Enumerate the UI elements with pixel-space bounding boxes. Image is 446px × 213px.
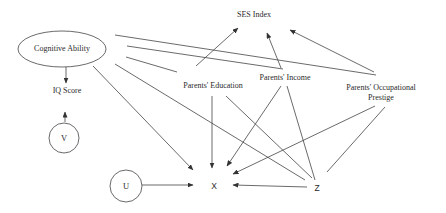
parents-occupational-line2: Prestige: [346, 93, 416, 103]
parents-income-label: Parents' Income: [260, 73, 311, 83]
x-label: X: [211, 181, 217, 192]
parents-occupational-line1: Parents' Occupational: [346, 83, 416, 93]
cognitive-ability-label: Cognitive Ability: [34, 44, 90, 54]
edge-education-z: [226, 96, 312, 178]
edge-education-ses: [196, 28, 238, 66]
edge-cognitive-education: [126, 57, 177, 72]
v-label: V: [61, 133, 67, 144]
parents-occupational-prestige-label: Parents' Occupational Prestige: [346, 83, 416, 103]
edge-income-ses: [267, 33, 281, 68]
edge-occupational-z: [327, 107, 385, 172]
z-label: Z: [314, 183, 319, 194]
edge-cognitive-x: [93, 66, 193, 170]
edge-income-x: [227, 86, 281, 166]
edge-z-x: [233, 185, 307, 187]
parents-education-label: Parents' Education: [183, 81, 242, 91]
diagram-canvas: [0, 0, 446, 213]
ses-index-label: SES Index: [237, 10, 271, 20]
edge-occupational-x: [233, 106, 375, 174]
edge-occupational-ses: [290, 30, 374, 72]
edge-cognitive-occupational: [115, 35, 376, 75]
u-label: U: [123, 181, 129, 192]
iq-score-label: IQ Score: [53, 86, 82, 96]
edge-income-z: [287, 86, 315, 180]
